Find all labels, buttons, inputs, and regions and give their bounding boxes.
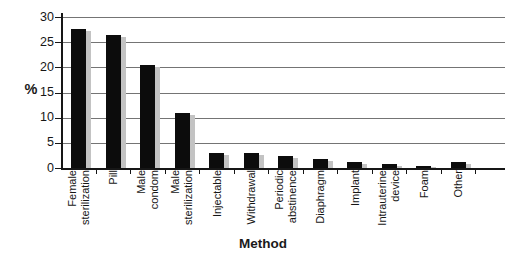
x-category-label-text: Male condom <box>135 170 161 234</box>
x-category-label-periodic-abstinence: Periodic abstinence <box>271 170 301 234</box>
bar-female-sterilization <box>71 29 86 168</box>
bar-diaphragm <box>313 159 328 168</box>
x-category-label-text: Foam <box>417 170 430 234</box>
y-axis-line <box>61 13 63 168</box>
x-category-label-intrauterine-device: Intrauterine device <box>374 170 404 234</box>
bar-foam <box>416 166 431 168</box>
y-tick-label-20: 20 <box>26 60 54 75</box>
x-category-label-diaphragm: Diaphragm <box>305 170 335 234</box>
bar-withdrawal <box>244 153 259 168</box>
x-category-label-other: Other <box>443 170 473 234</box>
x-category-label-text: Female sterilization <box>66 170 92 234</box>
x-tick-7 <box>337 170 338 174</box>
bar-injectable <box>209 153 224 168</box>
x-tick-5 <box>268 170 269 174</box>
x-tick-6 <box>303 170 304 174</box>
x-tick-2 <box>165 170 166 174</box>
x-category-label-male-sterilization: Male sterilization <box>167 170 197 234</box>
x-category-label-pill: Pill <box>98 170 128 234</box>
x-tick-9 <box>406 170 407 174</box>
x-category-label-text: Diaphragm <box>314 170 327 234</box>
gridline-30 <box>62 17 505 18</box>
bar-intrauterine-device <box>382 164 397 168</box>
bar-periodic-abstinence <box>278 156 293 168</box>
x-category-label-text: Intrauterine device <box>376 170 402 234</box>
bar-pill <box>106 35 121 168</box>
x-category-label-withdrawal: Withdrawal <box>236 170 266 234</box>
y-tick-label-0: 0 <box>26 161 54 176</box>
x-category-label-injectable: Injectable <box>202 170 232 234</box>
bar-male-sterilization <box>175 113 190 168</box>
x-category-label-implant: Implant <box>340 170 370 234</box>
x-axis-title: Method <box>63 236 463 251</box>
x-category-label-text: Periodic abstinence <box>273 170 299 234</box>
x-tick-10 <box>441 170 442 174</box>
x-category-label-foam: Foam <box>409 170 439 234</box>
gridline-20 <box>62 67 505 68</box>
x-tick-11 <box>475 170 476 174</box>
bar-implant <box>347 162 362 168</box>
x-tick-4 <box>234 170 235 174</box>
x-tick-3 <box>199 170 200 174</box>
x-category-label-text: Male sterilization <box>169 170 195 234</box>
x-category-label-male-condom: Male condom <box>133 170 163 234</box>
x-category-label-text: Other <box>452 170 465 234</box>
x-tick-8 <box>372 170 373 174</box>
y-tick-label-25: 25 <box>26 35 54 50</box>
gridline-25 <box>62 42 505 43</box>
x-category-label-text: Injectable <box>210 170 223 234</box>
gridline-5 <box>62 143 505 144</box>
y-tick-label-15: 15 <box>26 85 54 100</box>
bar-other <box>451 162 466 168</box>
bar-chart: % Method 051015202530Female sterilizatio… <box>0 0 509 260</box>
x-tick-0 <box>96 170 97 174</box>
gridline-10 <box>62 118 505 119</box>
y-tick-label-5: 5 <box>26 135 54 150</box>
x-category-label-text: Withdrawal <box>245 170 258 234</box>
y-tick-label-10: 10 <box>26 110 54 125</box>
x-category-label-text: Pill <box>107 170 120 234</box>
y-tick-label-30: 30 <box>26 10 54 25</box>
x-tick-1 <box>130 170 131 174</box>
gridline-15 <box>62 93 505 94</box>
x-category-label-text: Implant <box>348 170 361 234</box>
bar-male-condom <box>140 65 155 168</box>
x-category-label-female-sterilization: Female sterilization <box>64 170 94 234</box>
